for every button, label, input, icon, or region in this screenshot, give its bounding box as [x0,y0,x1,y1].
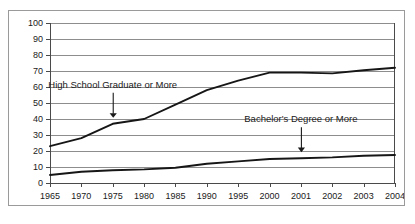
y-axis-tick-labels: 1009080706050403020100 [28,18,43,188]
x-axis-tick-label: 1990 [197,191,217,201]
x-axis-tick-label: 1995 [228,191,248,201]
y-axis-tick-marks [46,24,50,184]
x-axis-tick-labels: 1965197019751980198519901995200020012002… [40,191,404,201]
y-axis-tick-label: 10 [33,162,43,172]
y-axis-tick-label: 20 [33,146,43,156]
annotation-label: High School Graduate or More [48,79,177,90]
x-axis-tick-label: 2002 [322,191,342,201]
y-axis-tick-label: 50 [33,98,43,108]
chart-outer-frame: 1009080706050403020100 19651970197519801… [8,10,405,206]
gridlines-group [50,24,395,184]
y-axis-tick-label: 0 [38,178,43,188]
x-axis-tick-label: 2003 [354,191,374,201]
chart-figure: 1009080706050403020100 19651970197519801… [0,0,415,224]
y-axis-tick-label: 70 [33,66,43,76]
x-axis-tick-label: 2004 [385,191,404,201]
x-axis-tick-label: 1975 [103,191,123,201]
y-axis-tick-label: 40 [33,114,43,124]
down-arrow-icon [110,113,117,118]
annotation-label: Bachelor's Degree or More [244,113,357,124]
x-axis-tick-label: 2001 [291,191,311,201]
y-axis-tick-label: 80 [33,50,43,60]
x-axis-tick-label: 1970 [71,191,91,201]
y-axis-tick-label: 60 [33,82,43,92]
y-axis-tick-label: 30 [33,130,43,140]
x-axis-tick-label: 1985 [165,191,185,201]
y-axis-tick-label: 90 [33,34,43,44]
x-axis-tick-label: 1965 [40,191,60,201]
chart-annotations-group: High School Graduate or MoreBachelor's D… [48,79,357,152]
y-axis-tick-label: 100 [28,18,43,28]
line-chart: 1009080706050403020100 19651970197519801… [9,11,404,205]
series-line [50,155,395,175]
x-axis-tick-label: 2000 [260,191,280,201]
x-axis-tick-label: 1980 [134,191,154,201]
